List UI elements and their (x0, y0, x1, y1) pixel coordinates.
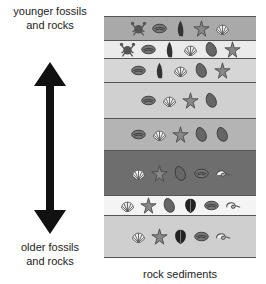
time-arrow-icon (34, 62, 66, 234)
rock-layer (104, 215, 256, 258)
clam-fossil-icon (193, 165, 210, 182)
clam-fossil-icon (130, 126, 147, 143)
older-label: older fossils and rocks (0, 240, 100, 268)
scallop-fossil-icon (119, 197, 136, 214)
mussel-fossil-icon (193, 62, 210, 79)
starfish-fossil-icon (151, 228, 168, 245)
rock-layer (104, 82, 256, 118)
starfish-fossil-icon (224, 41, 241, 58)
starfish-fossil-icon (182, 92, 199, 109)
rock-layer (104, 40, 256, 58)
scallop-fossil-icon (182, 41, 199, 58)
snail-fossil-icon (151, 62, 168, 79)
starfish-fossil-icon (193, 20, 210, 37)
mussel-fossil-icon (203, 92, 220, 109)
mussel-fossil-icon (203, 41, 220, 58)
scallop-fossil-icon (130, 228, 147, 245)
mussel-fossil-icon (214, 126, 231, 143)
ammonite-fossil-icon (214, 228, 231, 245)
scallop-fossil-icon (151, 126, 168, 143)
starfish-fossil-icon (214, 62, 231, 79)
mussel-fossil-icon (172, 165, 189, 182)
crab-fossil-icon (130, 20, 147, 37)
snail-fossil-icon (161, 41, 178, 58)
scallop-fossil-icon (172, 62, 189, 79)
crab-fossil-icon (119, 41, 136, 58)
starfish-fossil-icon (172, 126, 189, 143)
snail-fossil-icon (172, 20, 189, 37)
starfish-fossil-icon (151, 165, 168, 182)
rock-layer (104, 150, 256, 195)
mussel-fossil-icon (161, 197, 178, 214)
trilobite-fossil-icon (182, 197, 199, 214)
older-label-line2: and rocks (0, 254, 100, 268)
clam-fossil-icon (193, 228, 210, 245)
rock-layer (104, 58, 256, 82)
clam-fossil-icon (130, 62, 147, 79)
ammonite-fossil-icon (214, 165, 231, 182)
younger-label: younger fossils and rocks (0, 4, 100, 32)
rock-sediments-caption: rock sediments (104, 268, 256, 280)
clam-fossil-icon (203, 197, 220, 214)
scallop-fossil-icon (130, 165, 147, 182)
clam-fossil-icon (140, 92, 157, 109)
older-label-line1: older fossils (0, 240, 100, 254)
rock-layer (104, 195, 256, 215)
scallop-fossil-icon (161, 92, 178, 109)
younger-label-line2: and rocks (0, 18, 100, 32)
clam-fossil-icon (140, 41, 157, 58)
younger-label-line1: younger fossils (0, 4, 100, 18)
rock-layer (104, 16, 256, 40)
rock-layer (104, 118, 256, 150)
mussel-fossil-icon (193, 126, 210, 143)
starfish-fossil-icon (140, 197, 157, 214)
ammonite-fossil-icon (224, 197, 241, 214)
scallop-fossil-icon (214, 20, 231, 37)
trilobite-fossil-icon (172, 228, 189, 245)
clam-fossil-icon (151, 20, 168, 37)
